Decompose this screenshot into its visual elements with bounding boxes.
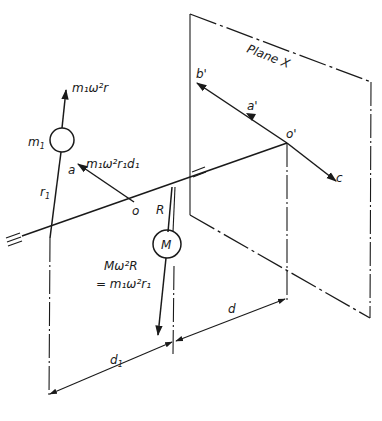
radius-r1-line	[50, 152, 61, 238]
c-label: c	[336, 171, 343, 185]
mass-m1-circle	[50, 128, 74, 152]
force-up-label: m₁ω²r	[72, 81, 109, 95]
shaft-axis	[22, 143, 287, 236]
o-prime-label: o'	[286, 127, 297, 141]
M-plane-reference-line	[173, 266, 174, 354]
m1-plane-reference-line	[49, 238, 50, 398]
centrifugal-force-arrow	[62, 90, 66, 128]
radius-R-line	[168, 187, 172, 232]
m1-label: m1	[28, 135, 45, 151]
couple-force-label: m₁ω²r₁d₁	[86, 157, 140, 171]
r1-label: r1	[40, 185, 50, 201]
R-label: R	[156, 203, 164, 217]
radius-R-line-2	[173, 187, 175, 232]
d-label: d	[228, 302, 236, 316]
balancing-diagram: Plane X m1 m₁ω²r r1 a m₁ω²r₁d₁ o R M Mω²…	[0, 0, 382, 421]
plane-top-edge	[190, 14, 371, 82]
plane-label: Plane X	[245, 42, 293, 71]
equal-mark-left	[6, 233, 22, 246]
vector-c-arrow	[287, 143, 336, 181]
M-label: M	[161, 238, 172, 252]
vector-b-prime-arrow	[197, 83, 287, 143]
balance-force-label-1: Mω²R	[104, 259, 138, 273]
balance-force-arrow	[158, 258, 166, 335]
o-label: o	[132, 204, 139, 218]
plane-right-edge	[370, 82, 371, 318]
a-prime-label: a'	[247, 99, 258, 113]
a-label: a	[68, 163, 75, 177]
dimension-d1	[50, 342, 172, 394]
b-prime-label: b'	[196, 67, 207, 81]
plane-bottom-edge	[190, 215, 370, 318]
balance-force-label-2: = m₁ω²r₁	[96, 277, 151, 291]
d1-label: d1	[110, 353, 123, 369]
